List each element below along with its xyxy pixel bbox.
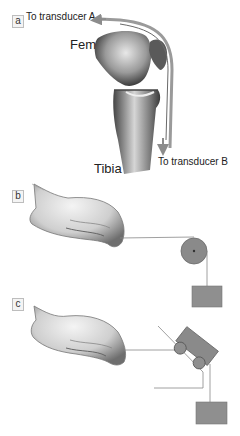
tibia-bone bbox=[113, 90, 160, 174]
hand-c bbox=[31, 306, 125, 365]
femur-bone bbox=[95, 31, 152, 86]
patella bbox=[149, 40, 167, 70]
panel-b-label: b bbox=[12, 190, 24, 203]
arrow-to-transducer-a-icon bbox=[96, 19, 106, 20]
weight-b bbox=[192, 286, 222, 307]
hand-b bbox=[30, 184, 124, 247]
cart-c bbox=[170, 327, 218, 373]
panel-c-label: c bbox=[12, 298, 24, 311]
weight-c bbox=[196, 402, 227, 424]
figure-canvas bbox=[0, 0, 240, 436]
string-b bbox=[120, 237, 194, 238]
